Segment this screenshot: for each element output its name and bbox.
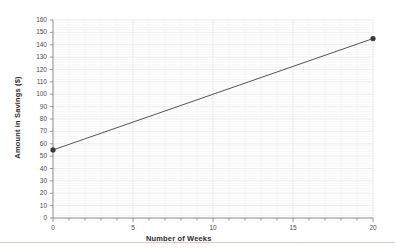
line-chart-plot <box>0 0 395 251</box>
chart-figure: Amount in Savings ($) Number of Weeks 01… <box>0 0 395 251</box>
bottom-separator-rule <box>0 242 395 243</box>
data-point-0-0 <box>50 147 55 152</box>
x-tick-label-10: 10 <box>201 224 225 231</box>
y-tick-label-110: 110 <box>25 78 47 85</box>
x-tick-label-5: 5 <box>121 224 145 231</box>
y-tick-label-50: 50 <box>25 152 47 159</box>
y-tick-label-70: 70 <box>25 127 47 134</box>
y-tick-label-0: 0 <box>25 214 47 221</box>
x-tick-label-0: 0 <box>41 224 65 231</box>
x-tick-label-20: 20 <box>361 224 385 231</box>
y-tick-label-160: 160 <box>25 16 47 23</box>
y-tick-label-150: 150 <box>25 28 47 35</box>
y-tick-label-60: 60 <box>25 140 47 147</box>
y-tick-label-90: 90 <box>25 103 47 110</box>
x-tick-label-15: 15 <box>281 224 305 231</box>
y-axis-title: Amount in Savings ($) <box>13 53 22 183</box>
y-tick-label-100: 100 <box>25 90 47 97</box>
data-point-0-1 <box>370 36 375 41</box>
y-tick-label-40: 40 <box>25 165 47 172</box>
y-tick-label-120: 120 <box>25 66 47 73</box>
y-tick-label-140: 140 <box>25 41 47 48</box>
y-tick-label-30: 30 <box>25 177 47 184</box>
y-tick-label-130: 130 <box>25 53 47 60</box>
y-tick-label-20: 20 <box>25 189 47 196</box>
y-tick-label-80: 80 <box>25 115 47 122</box>
y-tick-label-10: 10 <box>25 202 47 209</box>
